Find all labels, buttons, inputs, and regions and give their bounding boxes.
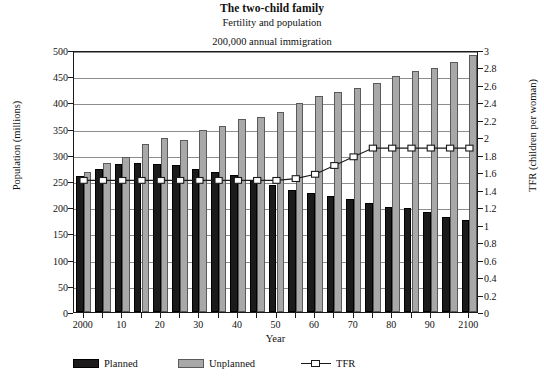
chart-legend: Planned Unplanned TFR bbox=[73, 358, 413, 374]
tfr-marker bbox=[447, 145, 454, 151]
y-axis-right-title: TFR (children per woman) bbox=[527, 36, 538, 236]
x-axis-tick bbox=[430, 313, 431, 318]
y-axis-left-tick-label: 500 bbox=[53, 46, 68, 57]
y-axis-left-tick-label: 100 bbox=[53, 255, 68, 266]
chart-root: The two-child family Fertility and popul… bbox=[0, 0, 544, 388]
y-axis-left-tick-label: 50 bbox=[58, 281, 68, 292]
x-axis-labels: 20001020304050607080902100 bbox=[73, 319, 478, 333]
unplanned-swatch-icon bbox=[178, 359, 204, 368]
y-axis-right-tick-label: 1.4 bbox=[484, 185, 497, 196]
y-axis-left-labels: 050100150200250300350400450500 bbox=[28, 51, 68, 313]
x-axis-tick-label: 90 bbox=[425, 319, 435, 330]
x-axis-tick bbox=[333, 313, 334, 318]
x-axis-tick bbox=[256, 313, 257, 318]
x-axis-tick-label: 2000 bbox=[73, 319, 93, 330]
tfr-marker bbox=[196, 178, 203, 184]
tfr-marker bbox=[80, 178, 87, 184]
chart-note: 200,000 annual immigration bbox=[0, 35, 544, 48]
tfr-marker bbox=[331, 163, 338, 169]
y-axis-left-tick-label: 450 bbox=[53, 72, 68, 83]
x-axis-tick-label: 50 bbox=[271, 319, 281, 330]
tfr-marker bbox=[350, 154, 357, 160]
x-axis-tick-label: 20 bbox=[155, 319, 165, 330]
y-axis-right-tick-label: 0.2 bbox=[484, 290, 497, 301]
x-axis-tick bbox=[449, 313, 450, 318]
page-title: The two-child family bbox=[0, 2, 544, 15]
tfr-marker bbox=[234, 178, 241, 184]
y-axis-right-tick-label: 2.8 bbox=[484, 63, 497, 74]
tfr-marker bbox=[177, 178, 184, 184]
x-axis-tick bbox=[218, 313, 219, 318]
x-axis-tick bbox=[468, 313, 469, 318]
x-axis-tick-label: 70 bbox=[348, 319, 358, 330]
x-axis-tick-label: 60 bbox=[309, 319, 319, 330]
tfr-marker bbox=[292, 176, 299, 182]
y-axis-right-tick-label: 0.8 bbox=[484, 238, 497, 249]
x-axis-tick-label: 10 bbox=[116, 319, 126, 330]
y-axis-right-tick-label: 3 bbox=[484, 46, 489, 57]
x-axis-tick bbox=[102, 313, 103, 318]
y-axis-right-tick-label: 2.4 bbox=[484, 98, 497, 109]
y-axis-right-tick-label: 1.2 bbox=[484, 203, 497, 214]
legend-item-unplanned: Unplanned bbox=[178, 358, 255, 369]
y-axis-left-tick-label: 200 bbox=[53, 203, 68, 214]
tfr-line-swatch-icon bbox=[301, 359, 331, 368]
y-axis-right-tick-label: 0.6 bbox=[484, 255, 497, 266]
legend-label-planned: Planned bbox=[104, 358, 138, 369]
y-axis-right-tick-label: 1.6 bbox=[484, 168, 497, 179]
y-axis-right-tick-label: 0.4 bbox=[484, 273, 497, 284]
x-axis-tick bbox=[121, 313, 122, 318]
x-axis-tick-label: 2100 bbox=[458, 319, 478, 330]
chart-subtitle: Fertility and population bbox=[0, 16, 544, 29]
tfr-marker bbox=[389, 145, 396, 151]
legend-label-unplanned: Unplanned bbox=[209, 358, 255, 369]
y-axis-left-tick-label: 250 bbox=[53, 177, 68, 188]
planned-swatch-icon bbox=[73, 359, 99, 368]
tfr-marker bbox=[466, 145, 473, 151]
plot-area bbox=[73, 51, 478, 313]
tfr-marker bbox=[157, 178, 164, 184]
x-axis-tick bbox=[295, 313, 296, 318]
title-block: The two-child family Fertility and popul… bbox=[0, 2, 544, 48]
legend-item-planned: Planned bbox=[73, 358, 138, 369]
y-axis-right-tick-label: 2.2 bbox=[484, 115, 497, 126]
x-axis-title: Year bbox=[73, 333, 478, 344]
y-axis-right-tick-label: 0 bbox=[484, 308, 489, 319]
tfr-marker bbox=[99, 178, 106, 184]
tfr-marker bbox=[215, 178, 222, 184]
tfr-marker bbox=[408, 145, 415, 151]
tfr-marker bbox=[119, 178, 126, 184]
tfr-marker bbox=[427, 145, 434, 151]
y-axis-left-tick-label: 300 bbox=[53, 150, 68, 161]
y-axis-left-tick-label: 400 bbox=[53, 98, 68, 109]
x-axis-tick-label: 30 bbox=[193, 319, 203, 330]
y-axis-right-tick-label: 1.8 bbox=[484, 150, 497, 161]
y-axis-left-title: Population (millions) bbox=[11, 46, 22, 246]
x-axis-tick bbox=[141, 313, 142, 318]
x-axis-tick bbox=[314, 313, 315, 318]
legend-item-tfr: TFR bbox=[301, 358, 355, 369]
x-axis-tick bbox=[83, 313, 84, 318]
y-axis-left-tick-label: 350 bbox=[53, 124, 68, 135]
tfr-marker bbox=[369, 145, 376, 151]
legend-label-tfr: TFR bbox=[336, 358, 355, 369]
x-axis-tick bbox=[160, 313, 161, 318]
y-axis-right-tick-label: 2 bbox=[484, 133, 489, 144]
x-axis-tick bbox=[179, 313, 180, 318]
y-axis-right-tick-label: 1 bbox=[484, 220, 489, 231]
x-axis-tick bbox=[198, 313, 199, 318]
tfr-line-series bbox=[74, 52, 479, 314]
x-axis-tick bbox=[372, 313, 373, 318]
y-axis-left-tick-label: 150 bbox=[53, 229, 68, 240]
tfr-marker bbox=[273, 178, 280, 184]
x-axis-tick bbox=[237, 313, 238, 318]
x-axis-tick-label: 40 bbox=[232, 319, 242, 330]
y-axis-right-tick-label: 2.6 bbox=[484, 80, 497, 91]
x-axis-tick bbox=[411, 313, 412, 318]
x-axis-tick-label: 80 bbox=[386, 319, 396, 330]
tfr-marker bbox=[312, 171, 319, 177]
x-axis-tick bbox=[391, 313, 392, 318]
tfr-marker bbox=[254, 178, 261, 184]
y-axis-right-labels: 00.20.40.60.811.21.41.61.822.22.42.62.83 bbox=[484, 51, 524, 313]
x-axis-tick bbox=[353, 313, 354, 318]
